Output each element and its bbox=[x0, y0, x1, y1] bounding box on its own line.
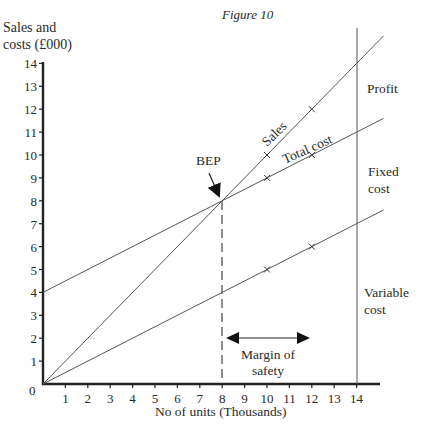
y-tick-label: 4 bbox=[31, 285, 38, 300]
x-axis-label: No of units (Thousands) bbox=[155, 404, 287, 419]
x-tick-label: 12 bbox=[305, 391, 318, 406]
x-axis-ticks: 1234567891011121314 bbox=[62, 384, 363, 406]
x-tick-label: 3 bbox=[107, 391, 114, 406]
fixed-cost-label-line1: Fixed bbox=[368, 164, 399, 179]
bep-arrow-icon bbox=[209, 173, 219, 196]
x-tick-label: 1 bbox=[62, 391, 69, 406]
y-tick-label: 5 bbox=[31, 263, 38, 278]
y-tick-label: 8 bbox=[31, 194, 38, 209]
margin-of-safety-label-line1: Margin of bbox=[241, 347, 296, 362]
x-tick-label: 13 bbox=[328, 391, 341, 406]
data-point-marker-icon bbox=[264, 267, 270, 273]
bep-label: BEP bbox=[196, 153, 221, 168]
data-point-marker-icon bbox=[264, 152, 270, 158]
y-tick-label: 13 bbox=[24, 79, 37, 94]
origin-label: 0 bbox=[29, 383, 36, 398]
variable-cost-label-line2: cost bbox=[364, 302, 386, 317]
x-tick-label: 14 bbox=[350, 391, 364, 406]
sales-line bbox=[43, 36, 384, 384]
y-tick-label: 14 bbox=[24, 56, 38, 71]
y-tick-label: 12 bbox=[24, 102, 37, 117]
x-tick-label: 4 bbox=[129, 391, 136, 406]
y-axis-label-line1: Sales and bbox=[3, 20, 56, 35]
break-even-chart: Figure 10 Sales and costs (£000) 1234567… bbox=[0, 0, 435, 441]
profit-label: Profit bbox=[367, 81, 398, 96]
axes bbox=[42, 62, 380, 385]
y-tick-label: 9 bbox=[31, 171, 38, 186]
y-tick-label: 11 bbox=[24, 125, 37, 140]
y-axis-ticks: 1234567891011121314 bbox=[24, 56, 43, 369]
y-tick-label: 10 bbox=[24, 148, 37, 163]
data-point-marker-icon bbox=[264, 175, 270, 181]
margin-of-safety-label-line2: safety bbox=[252, 363, 284, 378]
y-tick-label: 3 bbox=[31, 308, 38, 323]
sales-line-label: Sales bbox=[259, 119, 290, 150]
fixed-cost-label-line2: cost bbox=[368, 181, 390, 196]
data-point-marker-icon bbox=[309, 244, 315, 250]
y-tick-label: 7 bbox=[31, 217, 38, 232]
variable-cost-label-line1: Variable bbox=[364, 285, 409, 300]
variable-cost-line bbox=[43, 210, 384, 384]
figure-title: Figure 10 bbox=[221, 7, 274, 22]
series-lines bbox=[43, 36, 384, 384]
margin-of-safety-arrow-icon bbox=[226, 332, 310, 344]
total-cost-line-label: Total cost bbox=[280, 132, 334, 167]
x-tick-label: 2 bbox=[85, 391, 92, 406]
y-tick-label: 2 bbox=[31, 331, 38, 346]
y-tick-label: 6 bbox=[31, 240, 38, 255]
y-tick-label: 1 bbox=[31, 354, 38, 369]
data-point-marker-icon bbox=[309, 106, 315, 112]
y-axis-label-line2: costs (£000) bbox=[3, 37, 72, 53]
